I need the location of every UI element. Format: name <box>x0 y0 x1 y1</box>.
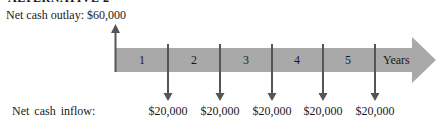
inflow-value-4: $20,000 <box>293 104 353 119</box>
net-cash-inflow-label: Net cash inflow: <box>12 104 95 119</box>
period-label-1: 1 <box>117 53 167 68</box>
period-label-2: 2 <box>169 53 219 68</box>
inflow-value-1: $20,000 <box>138 104 198 119</box>
inflow-value-2: $20,000 <box>190 104 250 119</box>
inflow-value-5: $20,000 <box>345 104 405 119</box>
period-label-4: 4 <box>272 53 322 68</box>
years-label: Years <box>383 53 410 68</box>
period-label-5: 5 <box>323 53 373 68</box>
period-label-3: 3 <box>221 53 271 68</box>
